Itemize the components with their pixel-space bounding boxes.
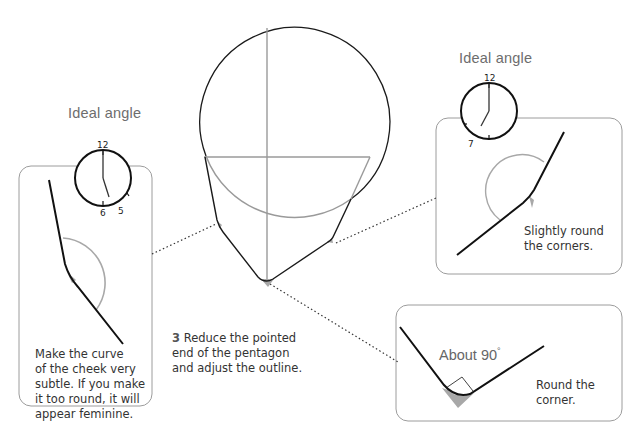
right-top-panel-caption: Slightly round the corners. xyxy=(524,224,604,254)
right-angle-marker xyxy=(446,377,473,391)
left-clock-label-12: 12 xyxy=(97,140,108,150)
right-clock-label-12: 12 xyxy=(484,73,495,83)
step-number: 3 xyxy=(172,331,180,345)
head-construction xyxy=(200,27,390,287)
left-clock-label-6: 6 xyxy=(100,208,106,218)
step-caption: 3 Reduce the pointed end of the pentagon… xyxy=(172,331,302,376)
right-bottom-panel-caption: Round the corner. xyxy=(536,378,595,408)
head-circle xyxy=(200,27,390,199)
left-panel-title: Ideal angle xyxy=(68,105,141,121)
right-clock xyxy=(461,83,517,140)
right-top-panel-title: Ideal angle xyxy=(459,50,532,66)
left-clock xyxy=(75,150,131,206)
left-clock-label-5: 5 xyxy=(118,206,124,216)
corner-shadow xyxy=(529,196,534,208)
right-top-connector xyxy=(336,198,436,243)
right-bottom-corner-illustration xyxy=(400,327,544,408)
pentagon-right-edge xyxy=(351,157,370,199)
angle-label: About 90° xyxy=(439,346,501,363)
face-outline xyxy=(205,157,351,281)
left-panel-caption: Make the curve of the cheek very subtle.… xyxy=(35,347,145,422)
right-clock-label-7: 7 xyxy=(468,139,474,149)
guide-circle-lower-arc xyxy=(206,156,351,217)
left-connector xyxy=(152,224,216,254)
degree-symbol: ° xyxy=(497,346,501,356)
corner-shadow xyxy=(442,388,474,408)
